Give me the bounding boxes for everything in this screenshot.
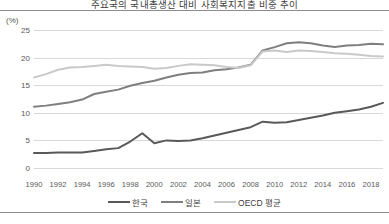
plot-area: (%) 2520151050 — [0, 14, 389, 180]
x-axis-tick-1990: 1990 — [26, 180, 43, 189]
x-axis-tick-1998: 1998 — [122, 180, 139, 189]
y-axis-tick-20: 20 — [21, 53, 30, 62]
x-axis-tick-1992: 1992 — [50, 180, 67, 189]
x-axis-tick-2014: 2014 — [314, 180, 331, 189]
legend-swatch-icon — [214, 201, 236, 203]
series-line-OECD 평균 — [34, 50, 383, 77]
legend-swatch-icon — [161, 201, 183, 203]
chart-legend: 한국일본OECD 평균 — [0, 195, 389, 209]
y-axis-tick-15: 15 — [21, 81, 30, 90]
legend-item-OECD 평균[interactable]: OECD 평균 — [214, 196, 281, 208]
footer-divider — [0, 212, 389, 213]
x-axis-tick-2000: 2000 — [146, 180, 163, 189]
legend-label: 일본 — [185, 196, 201, 208]
chart-title-clipped: 주요국의 국내총생산 대비 사회복지지출 비중 추이 — [0, 0, 389, 9]
series-line-한국 — [34, 103, 383, 153]
page-title: 주요국의 국내총생산 대비 사회복지지출 비중 추이 — [0, 0, 389, 9]
x-axis-tick-2006: 2006 — [218, 180, 235, 189]
x-axis-tick-1996: 1996 — [98, 180, 115, 189]
x-axis-tick-2012: 2012 — [290, 180, 307, 189]
x-axis-tick-2016: 2016 — [338, 180, 355, 189]
series-lines — [34, 14, 383, 180]
chart-page: 주요국의 국내총생산 대비 사회복지지출 비중 추이 (%) 252015105… — [0, 0, 389, 224]
legend-item-한국[interactable]: 한국 — [108, 196, 148, 208]
y-axis-tick-0: 0 — [26, 164, 30, 173]
y-axis-tick-5: 5 — [26, 136, 30, 145]
x-axis-tick-1994: 1994 — [74, 180, 91, 189]
legend-label: OECD 평균 — [238, 196, 281, 208]
x-axis-tick-2018: 2018 — [363, 180, 380, 189]
x-axis-tick-labels: 1990199219941996199820002002200420062008… — [34, 180, 383, 192]
legend-swatch-icon — [108, 201, 130, 203]
y-axis-tick-25: 25 — [21, 26, 30, 35]
x-axis-tick-2004: 2004 — [194, 180, 211, 189]
y-axis-tick-10: 10 — [21, 108, 30, 117]
legend-label: 한국 — [132, 196, 148, 208]
plot-grid — [34, 14, 383, 180]
x-axis-tick-2010: 2010 — [266, 180, 283, 189]
header-divider — [0, 10, 389, 11]
x-axis-tick-2002: 2002 — [170, 180, 187, 189]
x-axis-tick-2008: 2008 — [242, 180, 259, 189]
y-axis-tick-labels: 2520151050 — [0, 14, 34, 180]
legend-item-일본[interactable]: 일본 — [161, 196, 201, 208]
